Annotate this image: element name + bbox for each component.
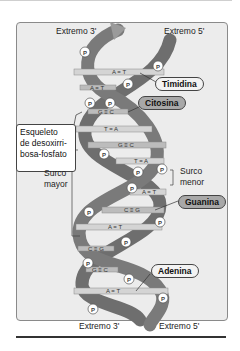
svg-text:P: P bbox=[127, 277, 131, 283]
phosphate-icon: P bbox=[127, 183, 137, 193]
top-3-prime-end-label: Extremo 3' bbox=[56, 26, 96, 36]
svg-text:G ≡ C: G ≡ C bbox=[92, 267, 109, 273]
phosphate-icon: P bbox=[99, 149, 109, 159]
svg-text:P: P bbox=[124, 240, 128, 246]
svg-text:P: P bbox=[83, 50, 87, 56]
phosphate-icon: P bbox=[155, 217, 165, 227]
phosphate-icon: P bbox=[83, 258, 93, 268]
svg-text:P: P bbox=[126, 82, 130, 88]
minor-groove-label: Surco menor bbox=[180, 166, 204, 188]
svg-text:T = A: T = A bbox=[104, 126, 118, 132]
svg-text:P: P bbox=[102, 152, 106, 158]
svg-text:P: P bbox=[136, 170, 140, 176]
svg-text:P: P bbox=[158, 220, 162, 226]
bottom-5-prime-end-label: Extremo 5' bbox=[159, 321, 199, 331]
backbone-label-line: de desoxirri- bbox=[20, 138, 72, 149]
svg-text:G ≡ C: G ≡ C bbox=[118, 142, 135, 148]
svg-text:P: P bbox=[161, 296, 165, 302]
svg-text:A = T: A = T bbox=[142, 189, 156, 195]
thymine-label: Timidina bbox=[155, 77, 204, 91]
phosphate-icon: P bbox=[88, 304, 98, 314]
svg-text:C ≡ G: C ≡ G bbox=[88, 246, 104, 252]
svg-text:T = A: T = A bbox=[134, 158, 148, 164]
svg-text:G ≡ C: G ≡ C bbox=[98, 109, 115, 115]
svg-text:P: P bbox=[108, 101, 112, 107]
svg-text:A = T: A = T bbox=[106, 288, 120, 294]
phosphate-icon: P bbox=[80, 47, 90, 57]
svg-text:P: P bbox=[88, 101, 92, 107]
cytosine-label: Citosina bbox=[138, 96, 186, 110]
phosphate-icon: P bbox=[153, 61, 163, 71]
svg-text:A = T: A = T bbox=[90, 85, 104, 91]
guanine-label: Guanina bbox=[178, 195, 226, 209]
svg-text:P: P bbox=[160, 167, 164, 173]
svg-text:P: P bbox=[130, 186, 134, 192]
svg-text:P: P bbox=[156, 64, 160, 70]
bottom-3-prime-end-label: Extremo 3' bbox=[79, 321, 119, 331]
top-5-prime-end-label: Extremo 5' bbox=[164, 26, 204, 36]
svg-text:P: P bbox=[86, 261, 90, 267]
phosphate-icon: P bbox=[121, 237, 131, 247]
phosphate-icon: P bbox=[157, 164, 167, 174]
backbone-callout: Esqueleto de desoxirri- bosa-fosfato bbox=[16, 124, 76, 172]
phosphate-icon: P bbox=[158, 293, 168, 303]
svg-text:A = T: A = T bbox=[112, 69, 126, 75]
backbone-label-line: bosa-fosfato bbox=[20, 149, 72, 160]
phosphate-icon: P bbox=[105, 98, 115, 108]
major-groove-label: Surco mayor bbox=[44, 168, 68, 190]
svg-text:P: P bbox=[91, 307, 95, 313]
svg-text:P: P bbox=[87, 210, 91, 216]
bottom-rule bbox=[16, 336, 226, 338]
phosphate-icon: P bbox=[123, 79, 133, 89]
phosphate-icon: P bbox=[124, 274, 134, 284]
backbone-label-line: Esqueleto bbox=[20, 127, 72, 138]
svg-text:A = T: A = T bbox=[108, 224, 122, 230]
minor-groove-bracket bbox=[170, 170, 173, 185]
phosphate-icon: P bbox=[133, 167, 143, 177]
adenine-label: Adenina bbox=[151, 264, 199, 278]
svg-text:C ≡ G: C ≡ G bbox=[124, 207, 140, 213]
phosphate-icon: P bbox=[85, 98, 95, 108]
phosphate-icon: P bbox=[84, 207, 94, 217]
